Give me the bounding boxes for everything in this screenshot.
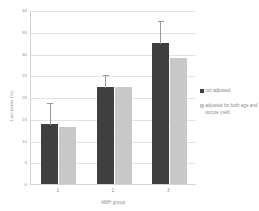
gridline <box>31 11 196 12</box>
error-bar <box>50 103 51 125</box>
error-bar <box>160 21 161 44</box>
gridline <box>31 33 196 34</box>
gridline <box>31 55 196 56</box>
legend-swatch-icon <box>200 104 204 108</box>
y-axis-tick-label: 0 <box>13 183 27 187</box>
bar <box>41 124 58 184</box>
bar <box>170 58 187 184</box>
y-axis-tick-label: 30 <box>13 52 27 56</box>
legend-label: not adjusted <box>205 88 230 95</box>
bar <box>115 87 132 184</box>
bar-chart: Live births (%) 0510152025303540 123 AMH… <box>0 0 259 211</box>
x-axis-tick-label: 3 <box>148 188 188 193</box>
bar <box>97 87 114 184</box>
y-axis-tick-label: 5 <box>13 161 27 165</box>
error-bar <box>105 75 106 88</box>
legend-entry-not-adjusted[interactable]: not adjusted <box>200 88 259 95</box>
legend-label: adjusted for both age and oocyte yield <box>205 103 259 117</box>
error-bar-cap <box>158 21 164 22</box>
error-bar-cap <box>47 103 53 104</box>
y-axis-tick-label: 15 <box>13 118 27 122</box>
x-axis-tick-label: 1 <box>38 188 78 193</box>
legend-swatch-icon <box>200 89 204 93</box>
bar <box>152 43 169 184</box>
y-axis-tick-label: 25 <box>13 74 27 78</box>
y-axis-tick-label: 10 <box>13 139 27 143</box>
bar <box>59 127 76 184</box>
x-axis-title: AMH group <box>30 200 196 205</box>
legend: not adjusted adjusted for both age and o… <box>200 88 259 125</box>
x-axis-tick-label: 2 <box>93 188 133 193</box>
plot-area <box>30 11 196 185</box>
error-bar-cap <box>103 75 109 76</box>
legend-entry-adjusted[interactable]: adjusted for both age and oocyte yield <box>200 103 259 117</box>
y-axis-tick-label: 35 <box>13 31 27 35</box>
y-axis-tick-label: 40 <box>13 9 27 13</box>
y-axis-tick-label: 20 <box>13 96 27 100</box>
